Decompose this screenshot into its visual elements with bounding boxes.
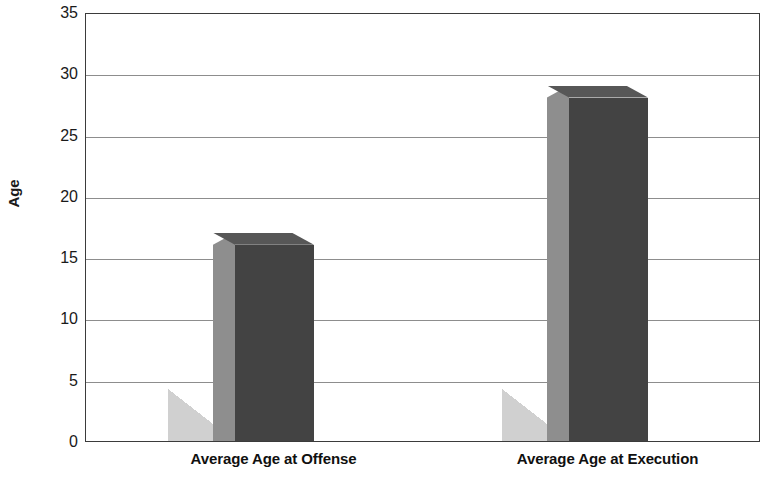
y-tick-label: 0 (42, 434, 78, 450)
y-tick-label: 35 (42, 5, 78, 21)
x-category-label: Average Age at Execution (468, 450, 748, 467)
y-tick-label: 5 (42, 373, 78, 389)
bar-chart: Age 35 30 25 20 15 10 5 0 Average Age at… (0, 0, 769, 479)
y-axis-tick-labels: 35 30 25 20 15 10 5 0 (34, 0, 78, 479)
y-tick-label: 15 (42, 250, 78, 266)
bar-1 (86, 12, 761, 441)
y-tick-label: 25 (42, 128, 78, 144)
y-tick-label: 20 (42, 189, 78, 205)
y-tick-label: 30 (42, 66, 78, 82)
y-axis-title: Age (5, 159, 22, 229)
bar-front-face (569, 98, 648, 441)
x-category-label: Average Age at Offense (134, 450, 414, 467)
y-tick-label: 10 (42, 311, 78, 327)
bar-side-face (547, 86, 569, 441)
plot-area (85, 13, 760, 442)
